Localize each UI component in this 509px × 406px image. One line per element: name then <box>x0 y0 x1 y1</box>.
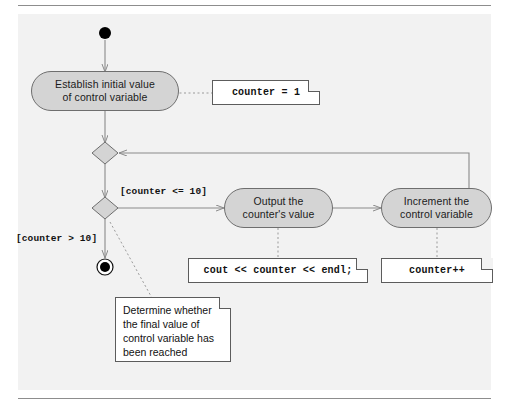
activity-establish-line1: Establish initial value <box>55 78 155 91</box>
note-decision-line3: control variable has <box>123 331 214 345</box>
note-fold-corner-icon <box>219 297 231 309</box>
note-init-code[interactable]: counter = 1 <box>212 80 320 105</box>
note-increment-code-text: counter++ <box>409 265 465 276</box>
activity-output-line2: counter's value <box>243 208 315 221</box>
note-output-code[interactable]: cout << counter << endl; <box>188 258 368 283</box>
note-decision-explanation[interactable]: Determine whether the final value of con… <box>115 297 231 362</box>
guard-counter-lte-10: [counter <= 10] <box>120 186 207 197</box>
note-fold-corner-icon <box>481 258 493 270</box>
note-fold-corner-icon <box>356 258 368 270</box>
activity-establish-initial-value[interactable]: Establish initial value of control varia… <box>31 71 179 111</box>
activity-output-line1: Output the <box>243 195 315 208</box>
activity-increment-line1: Increment the <box>400 195 473 208</box>
activity-diagram-page: Establish initial value of control varia… <box>0 0 509 406</box>
note-decision-line2: the final value of <box>123 317 214 331</box>
guard-counter-gt-10: [counter > 10] <box>16 233 97 244</box>
activity-increment-line2: control variable <box>400 208 473 221</box>
activity-establish-line2: of control variable <box>55 91 155 104</box>
activity-increment-control-variable[interactable]: Increment the control variable <box>381 188 492 228</box>
activity-output-counter-value[interactable]: Output the counter's value <box>224 188 333 228</box>
note-init-code-text: counter = 1 <box>232 87 300 98</box>
note-increment-code[interactable]: counter++ <box>381 258 493 283</box>
note-decision-line4: been reached <box>123 345 214 359</box>
note-decision-line1: Determine whether <box>123 303 214 317</box>
bottom-divider-rule <box>18 398 491 399</box>
top-divider-rule <box>18 5 491 6</box>
note-fold-corner-icon <box>308 80 320 92</box>
note-output-code-text: cout << counter << endl; <box>204 265 353 276</box>
